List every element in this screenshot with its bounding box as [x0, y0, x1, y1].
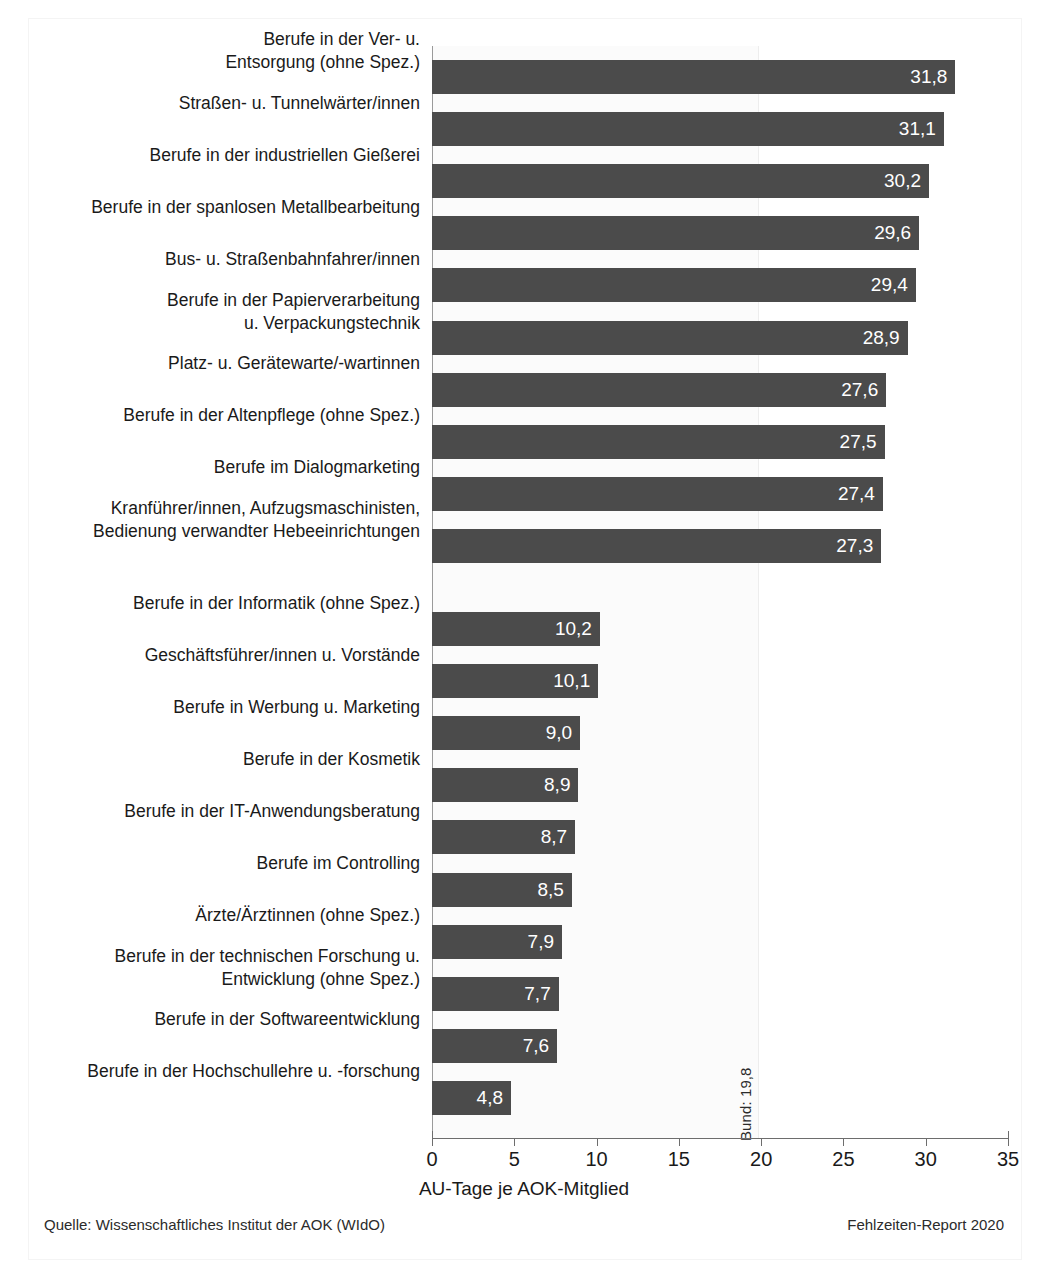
bar-value-label: 30,2: [877, 170, 921, 192]
x-tick-label-15: 15: [668, 1148, 690, 1171]
bar-category-label: Berufe in der Hochschullehre u. -forschu…: [40, 1046, 420, 1098]
x-axis-cap-right: [1008, 1131, 1009, 1139]
x-tick-0: [432, 1139, 433, 1146]
x-axis-line: [432, 1138, 1008, 1139]
x-axis-cap-left: [432, 1131, 433, 1139]
bar-value-label: 27,4: [831, 483, 875, 505]
bar-category-label: Kranführer/innen, Aufzugsmaschinisten, B…: [40, 494, 420, 546]
bar-category-label: Berufe in der Altenpflege (ohne Spez.): [40, 390, 420, 442]
bar: [432, 529, 881, 563]
bar-value-label: 9,0: [528, 722, 572, 744]
x-tick-label-25: 25: [832, 1148, 854, 1171]
bar-category-label: Geschäftsführer/innen u. Vorstände: [40, 629, 420, 681]
bar-value-label: 7,9: [510, 931, 554, 953]
plot-background-band: [432, 46, 758, 1138]
bar-category-label: Berufe in der Softwareentwicklung: [40, 994, 420, 1046]
bar-value-label: 31,1: [892, 118, 936, 140]
bar-value-label: 29,6: [867, 222, 911, 244]
x-tick-label-10: 10: [585, 1148, 607, 1171]
bar-value-label: 27,6: [834, 379, 878, 401]
bar-category-label: Ärzte/Ärztinnen (ohne Spez.): [40, 890, 420, 942]
x-tick-10: [597, 1139, 598, 1146]
bar: [432, 425, 885, 459]
bar-category-label: Berufe im Controlling: [40, 838, 420, 890]
x-tick-25: [843, 1139, 844, 1146]
bar-category-label: Berufe in der Ver- u. Entsorgung (ohne S…: [40, 25, 420, 77]
bar-value-label: 8,7: [523, 826, 567, 848]
bar-chart: Berufe in der Ver- u. Entsorgung (ohne S…: [0, 0, 1048, 1200]
figure-page: Berufe in der Ver- u. Entsorgung (ohne S…: [0, 0, 1048, 1285]
bar-value-label: 31,8: [903, 66, 947, 88]
x-tick-label-20: 20: [750, 1148, 772, 1171]
bar-category-label: Platz- u. Gerätewarte/-wartinnen: [40, 338, 420, 390]
y-axis-line: [432, 46, 433, 1138]
bar-category-label: Berufe in der Informatik (ohne Spez.): [40, 577, 420, 629]
bar-category-label: Straßen- u. Tunnelwärter/innen: [40, 77, 420, 129]
x-tick-5: [514, 1139, 515, 1146]
x-tick-label-0: 0: [426, 1148, 437, 1171]
bar-category-label: Berufe in Werbung u. Marketing: [40, 681, 420, 733]
bar: [432, 321, 908, 355]
bar: [432, 60, 955, 94]
x-tick-30: [926, 1139, 927, 1146]
bund-reference-label: Bund: 19,8: [737, 1067, 754, 1141]
bar-value-label: 8,5: [520, 879, 564, 901]
bar: [432, 477, 883, 511]
x-tick-35: [1008, 1139, 1009, 1146]
x-tick-label-30: 30: [915, 1148, 937, 1171]
bar-value-label: 7,7: [507, 983, 551, 1005]
bund-reference-line: [758, 46, 759, 1138]
bar-value-label: 27,5: [833, 431, 877, 453]
bar-category-label: Berufe in der industriellen Gießerei: [40, 129, 420, 181]
bar: [432, 164, 929, 198]
bar-category-label: Berufe in der technischen Forschung u. E…: [40, 942, 420, 994]
bar: [432, 268, 916, 302]
x-axis-label: AU-Tage je AOK-Mitglied: [0, 1178, 1048, 1200]
bar-category-label: Berufe in der IT-Anwendungsberatung: [40, 785, 420, 837]
plot-area: [432, 46, 1008, 1138]
x-tick-label-35: 35: [997, 1148, 1019, 1171]
bar: [432, 112, 944, 146]
bar-category-label: Berufe in der Kosmetik: [40, 733, 420, 785]
bar-category-label: Berufe in der Papierverarbeitung u. Verp…: [40, 286, 420, 338]
figure-footer: Quelle: Wissenschaftliches Institut der …: [0, 1216, 1048, 1238]
bar-value-label: 10,2: [548, 618, 592, 640]
bar-value-label: 29,4: [864, 274, 908, 296]
bar-value-label: 27,3: [829, 535, 873, 557]
source-note: Quelle: Wissenschaftliches Institut der …: [44, 1216, 385, 1233]
bar-category-label: Berufe in der spanlosen Metallbearbeitun…: [40, 181, 420, 233]
report-note: Fehlzeiten-Report 2020: [847, 1216, 1004, 1233]
bar-category-label: Berufe im Dialogmarketing: [40, 442, 420, 494]
bar-value-label: 7,6: [505, 1035, 549, 1057]
x-tick-20: [761, 1139, 762, 1146]
bar: [432, 373, 886, 407]
bar: [432, 216, 919, 250]
x-tick-label-5: 5: [509, 1148, 520, 1171]
bar-value-label: 8,9: [526, 774, 570, 796]
bar-value-label: 10,1: [546, 670, 590, 692]
bar-value-label: 4,8: [459, 1087, 503, 1109]
x-tick-15: [679, 1139, 680, 1146]
bar-category-label: Bus- u. Straßenbahnfahrer/innen: [40, 233, 420, 285]
bar-value-label: 28,9: [856, 327, 900, 349]
